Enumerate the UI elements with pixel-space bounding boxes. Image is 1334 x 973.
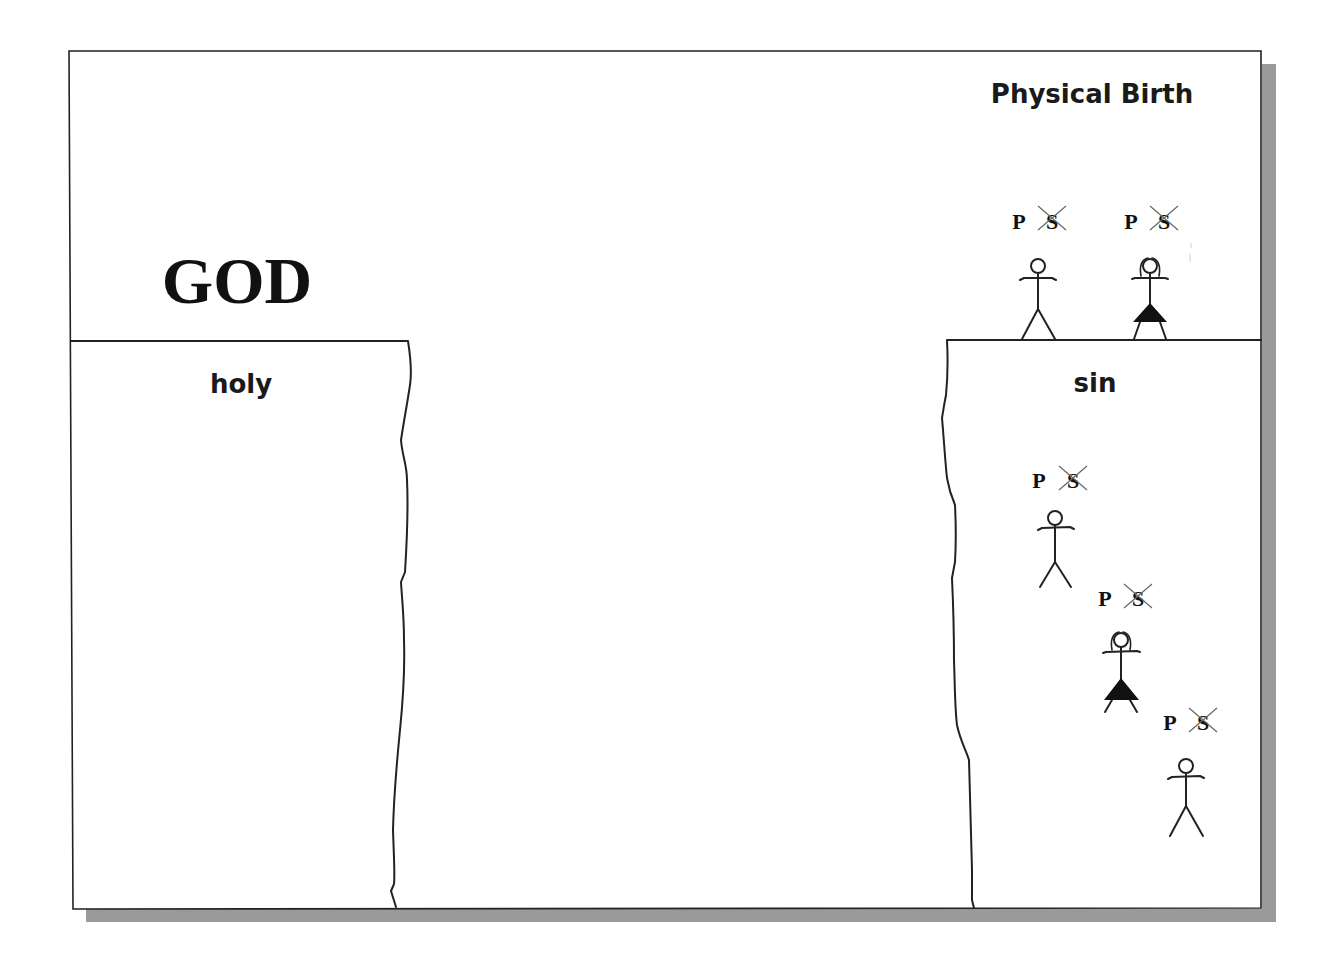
sin-label: sin [1074, 368, 1117, 398]
p-label: P [1098, 586, 1111, 611]
diagram-canvas: Physical Birth GOD holy sin P S P S [0, 0, 1334, 973]
slide-frame [69, 51, 1261, 909]
god-heading: GOD [162, 244, 312, 317]
diagram-svg: Physical Birth GOD holy sin P S P S [0, 0, 1334, 973]
title-physical-birth: Physical Birth [991, 79, 1193, 109]
p-label: P [1012, 209, 1025, 234]
p-label: P [1163, 710, 1176, 735]
s-label-crossed: S [1067, 468, 1079, 493]
s-label-crossed: S [1132, 586, 1144, 611]
p-label: P [1124, 209, 1137, 234]
holy-label: holy [210, 369, 272, 399]
s-label-crossed: S [1197, 710, 1209, 735]
p-label: P [1032, 468, 1045, 493]
